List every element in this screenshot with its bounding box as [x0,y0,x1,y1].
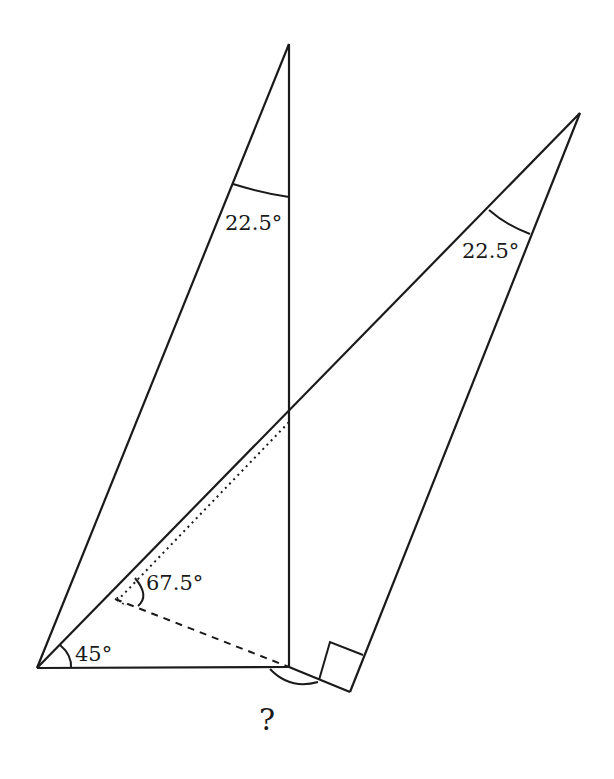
arc-right-angle [489,210,530,234]
label-unknown-angle: ? [259,702,275,737]
label-top-angle: 22.5° [225,211,282,235]
label-mid-angle: 67.5° [146,571,203,595]
label-right-angle: 22.5° [462,239,519,263]
diagonal-edge [37,113,580,668]
base-edge [37,667,289,668]
label-base-angle: 45° [75,642,112,666]
dotted-segment [117,420,291,601]
right-long-leg [350,113,580,692]
dashed-segment [115,599,289,667]
arc-top-angle [233,184,289,197]
geometry-diagram: 22.5° 22.5° 67.5° 45° ? [0,0,614,779]
arc-mid-angle [135,578,143,606]
arc-base-angle [60,645,71,668]
